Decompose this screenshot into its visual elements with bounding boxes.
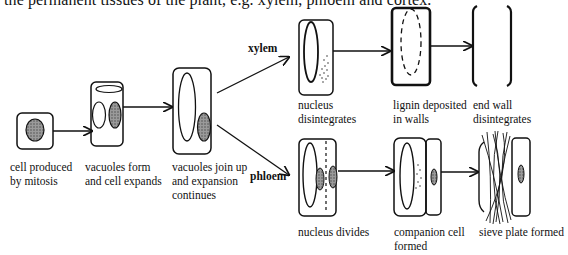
nucleus-icon — [329, 166, 337, 188]
nucleus-icon — [198, 113, 211, 141]
vacuole-icon — [96, 86, 122, 93]
phloem-cell-companion — [394, 138, 441, 216]
label-xylem-nucleus: nucleus disintegrates — [298, 98, 356, 126]
disintegrated-nucleus-dots — [319, 55, 328, 82]
phloem-cell-sieve-plate — [479, 131, 530, 224]
cell-vacuoles-form — [91, 82, 123, 146]
cell-mitosis — [17, 113, 53, 149]
nucleus-icon — [431, 169, 437, 185]
cell-vacuoles-join — [173, 68, 211, 154]
vacuole-icon — [303, 143, 317, 207]
label-phloem-sieve: sieve plate formed — [479, 225, 564, 239]
sieve-plate-strands — [482, 131, 511, 224]
branch-label-xylem: xylem — [248, 42, 277, 54]
vacuole-icon — [304, 22, 318, 82]
branch-label-phloem: phloem — [250, 170, 286, 182]
label-phloem-divides: nucleus divides — [298, 225, 369, 239]
label-mitosis: cell produced by mitosis — [10, 160, 72, 188]
arrow-to-xylem — [217, 57, 289, 93]
nucleus-icon — [26, 119, 44, 141]
vacuole-icon — [400, 143, 414, 209]
xylem-cell-lignin — [392, 8, 430, 85]
label-phloem-companion: companion cell formed — [394, 225, 465, 253]
label-xylem-lignin: lignin deposited in walls — [393, 98, 467, 126]
xylem-cell-nucleus-disintegrates — [299, 20, 333, 95]
xylem-cell-end-wall — [473, 6, 511, 86]
nucleus-icon — [109, 102, 121, 128]
phloem-cell-nucleus-divides — [299, 139, 337, 216]
label-vacuoles-join: vacuoles join up and expansion continues — [172, 160, 247, 202]
vacuole-icon — [93, 102, 106, 128]
label-xylem-endwall: end wall disintegrates — [473, 98, 531, 126]
label-vacuoles-form: vacuoles form and cell expands — [85, 160, 162, 188]
vacuole-dashed-icon — [401, 9, 421, 75]
vacuole-icon — [179, 73, 196, 141]
cell-differentiation-diagram: the permanent tissues of the plant, e.g.… — [0, 0, 568, 255]
nucleus-icon — [518, 165, 524, 183]
nucleus-icon — [316, 168, 324, 190]
diagram-graphics — [0, 0, 568, 255]
